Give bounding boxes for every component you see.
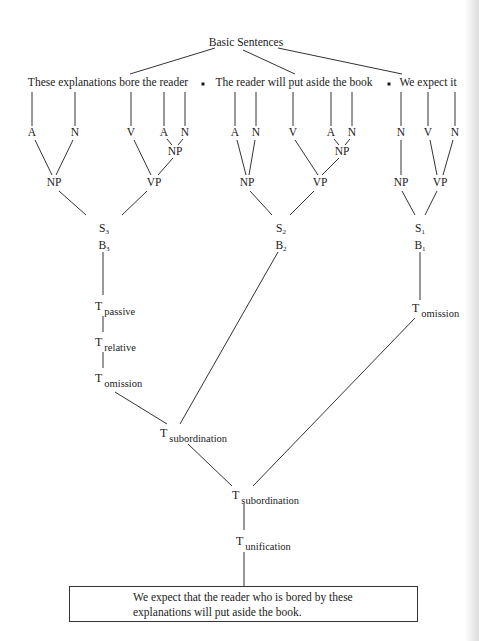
tree2-np: NP	[240, 177, 255, 189]
basic-sentence-2: The reader will put aside the book	[215, 77, 372, 89]
t-unification-node: Tunification	[236, 535, 291, 548]
basic-sentence-3: These explanations bore the reader	[28, 77, 188, 89]
t-omission-right-node: Tomission	[412, 302, 459, 315]
t-passive-node: Tpassive	[95, 300, 135, 313]
result-line-2: explanations will put aside the book.	[133, 605, 417, 620]
tree1-vp: VP	[433, 177, 448, 189]
tree2-leaf-v: V	[289, 127, 297, 139]
separator-bullet-2	[388, 83, 391, 86]
tree3-leaf-v: V	[127, 127, 135, 139]
separator-bullet-1	[202, 83, 205, 86]
result-line-1: We expect that the reader who is bored b…	[133, 590, 417, 605]
tree2-leaf-a2: A	[327, 127, 335, 139]
t-omission-left-node: Tomission	[95, 372, 142, 385]
tree3-leaf-a: A	[28, 127, 36, 139]
tree1-leaf-v: V	[424, 127, 432, 139]
tree2-leaf-a: A	[231, 127, 239, 139]
tree3-leaf-n: N	[71, 127, 79, 139]
tree2-vp: VP	[313, 177, 328, 189]
t-subordination-1-node: Tsubordination	[160, 427, 227, 440]
tree3-sb-node: S3 B3	[98, 222, 109, 256]
title-basic-sentences: Basic Sentences	[209, 37, 283, 49]
tree3-leaf-a2: A	[160, 127, 168, 139]
tree3-leaf-n2: N	[181, 127, 189, 139]
basic-sentence-1: We expect it	[399, 77, 456, 89]
tree3-inner-np: NP	[168, 146, 183, 158]
tree1-leaf-n2: N	[451, 127, 459, 139]
tree2-leaf-n2: N	[348, 127, 356, 139]
tree1-sb-node: S1 B1	[414, 222, 425, 256]
tree1-np: NP	[394, 177, 409, 189]
tree2-leaf-n: N	[252, 127, 260, 139]
tree3-np: NP	[47, 177, 62, 189]
t-relative-node: Trelative	[95, 336, 136, 349]
tree3-vp: VP	[147, 177, 162, 189]
tree2-inner-np: NP	[335, 146, 350, 158]
result-sentence-box: We expect that the reader who is bored b…	[69, 586, 418, 622]
t-subordination-2-node: Tsubordination	[232, 489, 299, 502]
tree2-sb-node: S2 B2	[275, 222, 286, 256]
tree1-leaf-n: N	[397, 127, 405, 139]
